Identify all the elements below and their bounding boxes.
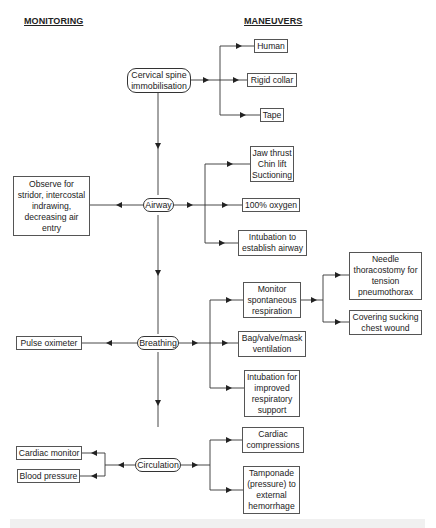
maneuver-monitor-spontaneous-respiration[interactable]: Monitor spontaneous respiration [243, 282, 301, 318]
monitor-cardiac-monitor[interactable]: Cardiac monitor [16, 446, 82, 460]
monitor-pulse-oximeter[interactable]: Pulse oximeter [16, 336, 82, 350]
maneuver-tamponade[interactable]: Tamponade (pressure) to external hemorrh… [243, 466, 300, 514]
monitor-blood-pressure[interactable]: Blood pressure [17, 469, 80, 483]
maneuver-human[interactable]: Human [254, 39, 288, 53]
stage-circulation[interactable]: Circulation [135, 458, 181, 472]
monitor-airway-observe[interactable]: Observe for stridor, intercostal indrawi… [13, 176, 90, 236]
maneuver-needle-thoracostomy[interactable]: Needle thoracostomy for tension pneumoth… [349, 252, 422, 300]
stage-airway[interactable]: Airway [143, 198, 174, 212]
maneuver-jaw-thrust-chin-lift-suctioning[interactable]: Jaw thrust Chin lift Suctioning [250, 146, 294, 182]
maneuver-cardiac-compressions[interactable]: Cardiac compressions [242, 427, 304, 453]
maneuver-intubation-establish-airway[interactable]: Intubation to establish airway [238, 230, 307, 256]
maneuver-100-oxygen[interactable]: 100% oxygen [242, 198, 300, 212]
maneuver-intubation-respiratory-support[interactable]: Intubation for improved respiratory supp… [244, 370, 300, 417]
maneuver-covering-chest-wound[interactable]: Covering sucking chest wound [349, 310, 422, 335]
maneuver-rigid-collar[interactable]: Rigid collar [247, 73, 297, 87]
stage-breathing[interactable]: Breathing [137, 336, 179, 350]
stage-cervical-spine[interactable]: Cervical spine immobilisation [127, 68, 191, 93]
maneuver-tape[interactable]: Tape [260, 108, 284, 122]
maneuver-bag-valve-mask[interactable]: Bag/valve/mask ventilation [238, 331, 306, 357]
bottom-divider [10, 519, 425, 528]
